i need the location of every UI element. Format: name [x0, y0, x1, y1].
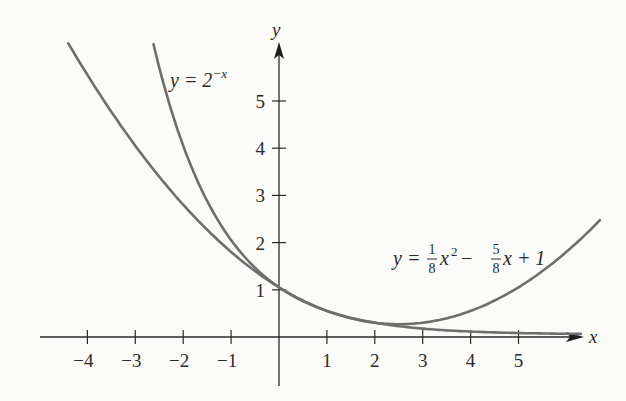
x-tick-label: 3	[418, 350, 428, 371]
label-parabola: y = 1 8 x 2 − 5 8 x + 1	[391, 242, 545, 276]
label-quad-tail: x + 1	[502, 247, 545, 269]
y-tick-label: 3	[256, 185, 266, 206]
x-tick-label: −2	[169, 350, 189, 371]
label-exponential: y = 2−x	[168, 66, 227, 92]
x-ticks: −4−3−2−112345	[73, 330, 523, 371]
y-tick-label: 1	[256, 280, 266, 301]
label-exp-lhs: y = 2	[168, 69, 212, 92]
y-axis-label: y	[270, 19, 281, 40]
x-tick-label: −3	[121, 350, 141, 371]
x-tick-label: 5	[514, 350, 524, 371]
x-tick-label: 2	[370, 350, 380, 371]
svg-text:y = 2−x: y = 2−x	[168, 66, 227, 92]
label-exp-sup: −x	[212, 66, 227, 81]
axes	[40, 42, 584, 386]
x-tick-label: 4	[466, 350, 476, 371]
x-tick-label: −4	[73, 350, 94, 371]
x-tick-label: −1	[217, 350, 237, 371]
label-quad-lhs: y =	[391, 247, 420, 270]
label-quad-sq: 2	[451, 244, 458, 259]
curve-parabola	[68, 43, 600, 324]
y-tick-label: 4	[256, 138, 266, 159]
x-tick-label: 1	[322, 350, 332, 371]
x-axis-label: x	[588, 326, 598, 347]
label-quad-x: x	[439, 247, 449, 269]
chart: −4−3−2−112345 12345 x y y = 2−x y = 1 8 …	[0, 0, 626, 401]
label-quad-frac2-den: 8	[493, 261, 500, 276]
label-quad-minus: −	[461, 247, 472, 269]
y-tick-label: 5	[256, 91, 266, 112]
label-quad-frac1-num: 1	[429, 242, 436, 257]
y-tick-label: 2	[256, 233, 266, 254]
y-ticks: 12345	[256, 91, 287, 301]
curve-exponential	[154, 44, 581, 334]
label-quad-frac1-den: 8	[429, 261, 436, 276]
label-quad-frac2-num: 5	[493, 242, 500, 257]
